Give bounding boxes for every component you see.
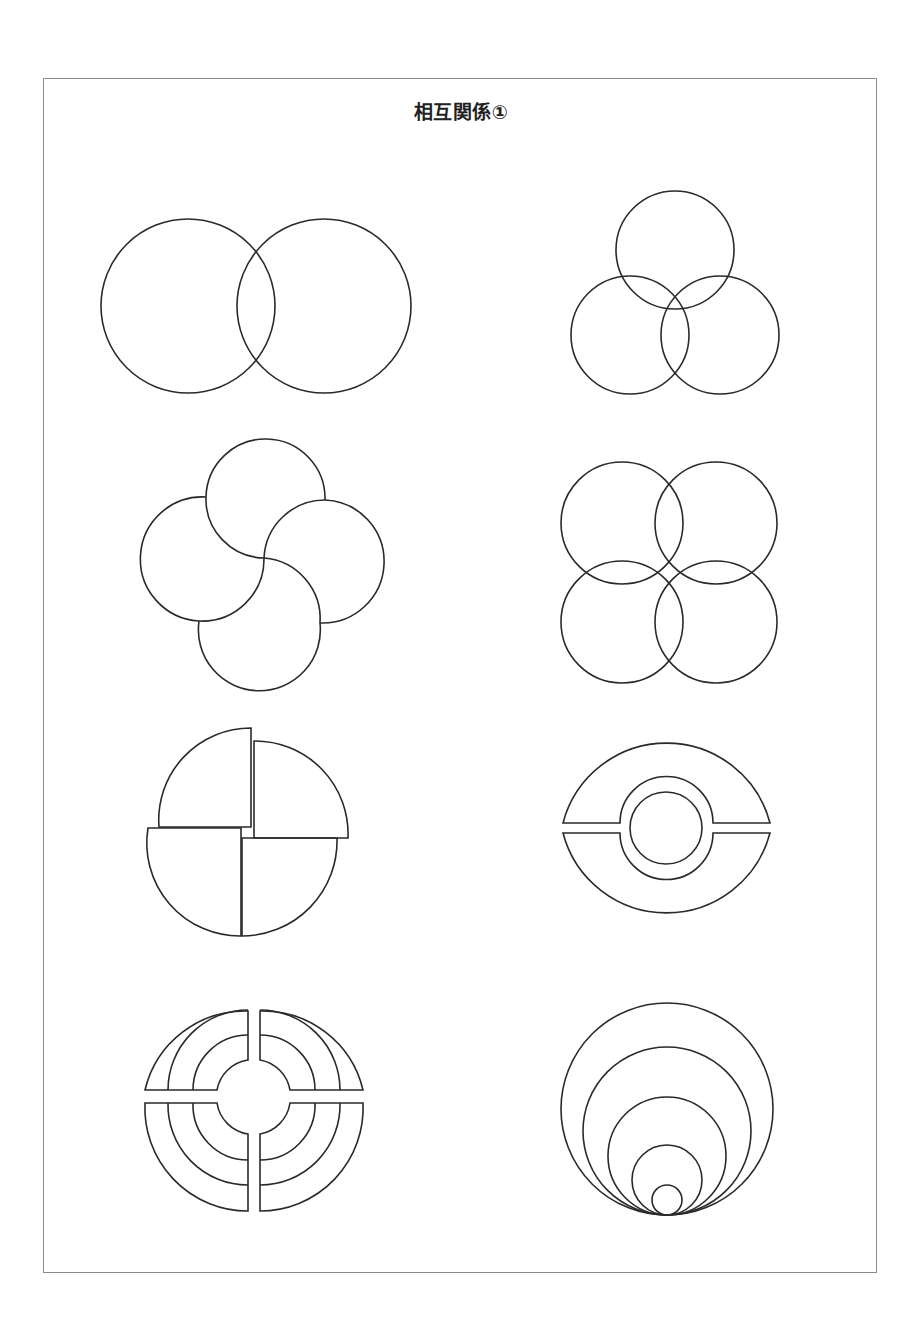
diagram-canvas (0, 0, 923, 1338)
diagram-two-circle-venn (101, 219, 411, 393)
diagram-three-circle-venn (571, 191, 779, 394)
diagram-offset-quarters (147, 728, 348, 936)
diagram-pinwheel-circles (140, 439, 384, 691)
diagram-four-circle-grid (561, 462, 777, 683)
diagram-quadrant-target (145, 1010, 363, 1211)
diagram-nested-tangent-circles (561, 1003, 773, 1215)
diagram-split-ring-circle (563, 743, 770, 913)
